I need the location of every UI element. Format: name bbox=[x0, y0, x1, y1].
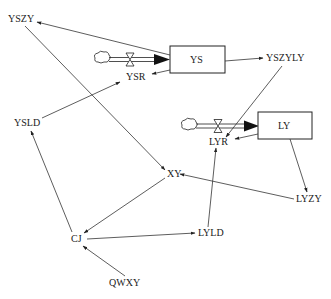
link-cj-lyld bbox=[87, 233, 195, 239]
valve-icon bbox=[126, 53, 134, 66]
variable-yszyly[interactable]: YSZYLY bbox=[266, 52, 304, 63]
link-ly-lyr bbox=[235, 134, 258, 139]
stock-flow-diagram: YSR YS LYR LY YSZY YSZYLY YSLD XY LYZY C… bbox=[0, 0, 331, 299]
lyr-inflow: LYR bbox=[181, 118, 259, 147]
cloud-source-icon bbox=[181, 118, 197, 130]
flow-label-lyr: LYR bbox=[209, 136, 228, 147]
cloud-source-icon bbox=[94, 51, 110, 63]
link-ys-yszy bbox=[37, 22, 170, 55]
link-yszy-xy bbox=[25, 26, 165, 170]
link-xy-cj bbox=[84, 178, 165, 233]
link-qwxy-cj bbox=[83, 246, 125, 276]
link-ysld-ysr bbox=[42, 82, 120, 118]
variable-lyzy[interactable]: LYZY bbox=[296, 193, 322, 204]
variable-xy[interactable]: XY bbox=[167, 168, 181, 179]
stock-label-ly: LY bbox=[278, 120, 290, 131]
ysr-inflow: YSR bbox=[94, 51, 170, 82]
stock-label-ys: YS bbox=[190, 54, 203, 65]
variable-ysld[interactable]: YSLD bbox=[14, 117, 40, 128]
link-lyld-lyr bbox=[208, 148, 216, 227]
variable-yszy[interactable]: YSZY bbox=[8, 13, 34, 24]
link-lyzy-xy bbox=[180, 174, 294, 199]
link-cj-ysld bbox=[31, 131, 72, 232]
flow-label-ysr: YSR bbox=[126, 71, 146, 82]
link-ys-yszyly bbox=[225, 58, 263, 61]
diagram-canvas: YSR YS LYR LY YSZY YSZYLY YSLD XY LYZY C… bbox=[0, 0, 331, 299]
variable-cj[interactable]: CJ bbox=[71, 233, 82, 244]
flow-arrowhead-icon bbox=[244, 121, 259, 132]
flow-arrowhead-icon bbox=[154, 54, 170, 65]
variable-qwxy[interactable]: QWXY bbox=[109, 277, 140, 288]
valve-icon bbox=[214, 120, 222, 133]
link-ly-lyzy bbox=[290, 139, 307, 192]
link-ys-ysr bbox=[152, 70, 170, 74]
variable-lyld[interactable]: LYLD bbox=[198, 227, 224, 238]
